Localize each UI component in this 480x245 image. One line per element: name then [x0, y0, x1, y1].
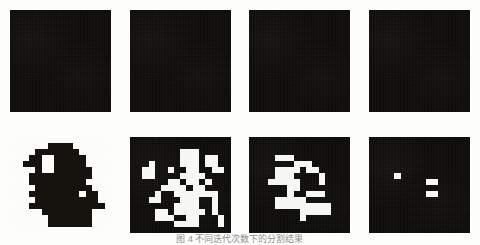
grid-cell	[224, 106, 230, 112]
panel-top-2-grid	[130, 10, 231, 112]
grid-cell	[464, 106, 470, 112]
grid-cell	[464, 227, 470, 233]
panel-row-top	[0, 10, 480, 112]
panel-row-bottom	[0, 137, 480, 233]
panel-bottom-2	[130, 137, 231, 233]
grid-cell	[224, 227, 230, 233]
panel-bottom-4	[369, 137, 470, 233]
grid-cell	[105, 106, 111, 112]
panel-top-4-grid	[369, 10, 470, 112]
panel-top-3	[249, 10, 350, 112]
panel-bottom-3-grid	[249, 137, 350, 233]
figure-caption: 图 4 不同迭代次数下的分割结果	[0, 234, 480, 245]
figure-container: 图 4 不同迭代次数下的分割结果	[0, 0, 480, 245]
panel-bottom-4-grid	[369, 137, 470, 233]
panel-bottom-3	[249, 137, 350, 233]
grid-cell	[105, 227, 111, 233]
grid-cell	[344, 106, 350, 112]
panel-top-4	[369, 10, 470, 112]
panel-top-3-grid	[249, 10, 350, 112]
panel-bottom-2-grid	[130, 137, 231, 233]
grid-cell	[344, 227, 350, 233]
panel-top-1-grid	[10, 10, 111, 112]
panel-bottom-1	[10, 137, 111, 233]
panel-bottom-1-grid	[10, 137, 111, 233]
panel-top-2	[130, 10, 231, 112]
panel-top-1	[10, 10, 111, 112]
